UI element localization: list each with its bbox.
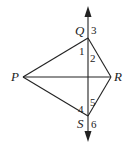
point-label-r: R (113, 69, 122, 84)
angle-label-6: 6 (91, 118, 97, 130)
angle-label-5: 5 (90, 96, 96, 108)
arrowhead-up-icon (85, 6, 92, 17)
arrowhead-down-icon (85, 131, 92, 142)
angle-label-3: 3 (91, 24, 97, 36)
angle-label-1: 1 (79, 45, 85, 57)
segment-pq (23, 38, 88, 77)
point-label-q: Q (75, 23, 85, 38)
point-label-s: S (77, 116, 84, 131)
angle-label-2: 2 (90, 52, 96, 64)
quadrilateral-diagram: Q P R S 1 2 3 4 5 6 (0, 0, 132, 145)
point-label-p: P (10, 69, 19, 84)
angle-label-4: 4 (78, 103, 84, 115)
